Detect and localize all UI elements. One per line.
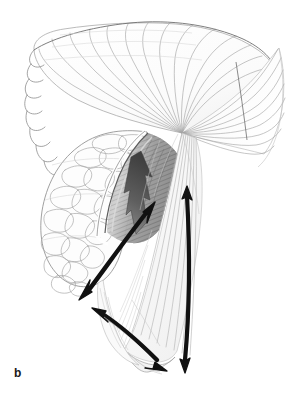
anatomical-illustration xyxy=(0,0,299,394)
figure-panel: b xyxy=(0,0,299,394)
panel-label: b xyxy=(14,367,21,379)
